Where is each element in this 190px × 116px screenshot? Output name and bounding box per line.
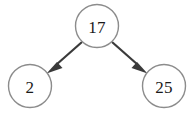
edge-root-to-right <box>112 42 148 74</box>
edge-root-to-left-arrowhead <box>47 62 63 74</box>
tree-node-right-label: 25 <box>155 78 173 97</box>
tree-node-root: 17 <box>76 5 119 48</box>
edge-root-to-right-line <box>112 42 138 65</box>
binary-tree-diagram: 17 2 25 <box>0 0 190 116</box>
tree-node-root-label: 17 <box>88 18 106 37</box>
edge-root-to-right-arrowhead <box>132 62 148 74</box>
tree-svg-canvas: 17 2 25 <box>0 0 190 116</box>
tree-node-right: 25 <box>143 65 186 108</box>
tree-node-left: 2 <box>9 65 52 108</box>
tree-node-left-label: 2 <box>26 78 35 97</box>
edge-root-to-left <box>47 42 83 74</box>
edge-root-to-left-line <box>57 42 83 65</box>
